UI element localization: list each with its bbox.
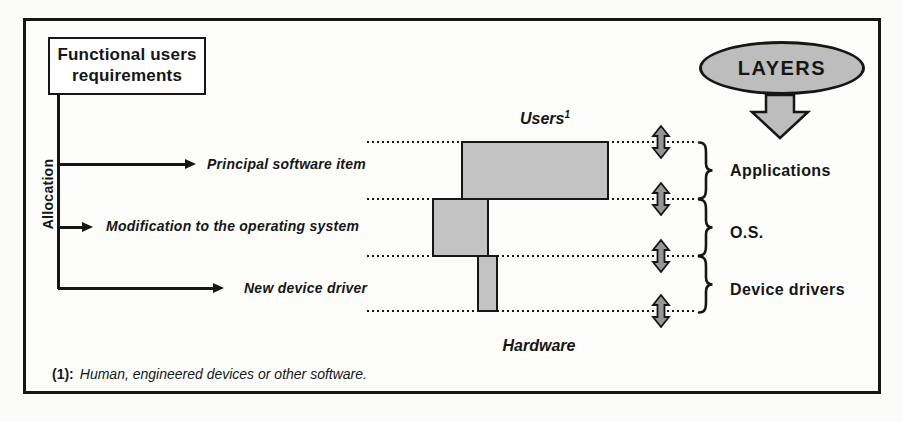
layer-interface-double-arrow-icon [651, 182, 671, 216]
allocation-trunk-line [57, 94, 60, 289]
allocated-item-label-principal: Principal software item [207, 156, 366, 172]
layer-brace-icon [697, 255, 714, 314]
requirements-line1: Functional users [57, 45, 196, 66]
layer-interface-double-arrow-icon [651, 125, 671, 159]
layer-interface-double-arrow-icon [651, 239, 671, 273]
allocated-item-label-device-driver: New device driver [244, 280, 367, 296]
allocation-axis-label: Allocation [40, 149, 56, 239]
principal-software-item-box [461, 141, 609, 200]
users-footnote-ref: 1 [564, 109, 570, 120]
layer-boundary-dotted-line-4 [367, 310, 694, 312]
layer-label-applications: Applications [730, 162, 831, 180]
layer-label-os: O.S. [730, 224, 764, 242]
figure-canvas: Functional users requirements Allocation… [0, 0, 903, 422]
layer-label-device-drivers: Device drivers [730, 281, 845, 299]
arrowhead-icon [82, 222, 93, 232]
users-label: Users1 [495, 109, 595, 128]
arrowhead-icon [185, 159, 196, 169]
footnote-text: Human, engineered devices or other softw… [80, 366, 367, 382]
layer-brace-icon [697, 141, 714, 200]
layer-boundary-dotted-line-3 [367, 255, 694, 257]
allocation-arrow-device-driver [58, 287, 213, 290]
footnote: (1):Human, engineered devices or other s… [52, 366, 367, 382]
footnote-marker: (1): [52, 366, 74, 382]
layers-down-arrow-icon [749, 94, 811, 140]
layer-brace-icon [697, 198, 714, 257]
os-modification-box [432, 198, 489, 257]
layer-interface-double-arrow-icon [651, 294, 671, 328]
allocation-arrow-os-modification [58, 226, 82, 229]
layers-ellipse: LAYERS [699, 41, 865, 95]
hardware-label: Hardware [478, 337, 600, 355]
allocation-arrow-principal [58, 163, 185, 166]
device-driver-box [477, 255, 498, 312]
functional-users-requirements-box: Functional users requirements [48, 37, 206, 95]
allocated-item-label-os-modification: Modification to the operating system [106, 218, 359, 234]
arrowhead-icon [213, 283, 224, 293]
requirements-line2: requirements [72, 66, 182, 87]
